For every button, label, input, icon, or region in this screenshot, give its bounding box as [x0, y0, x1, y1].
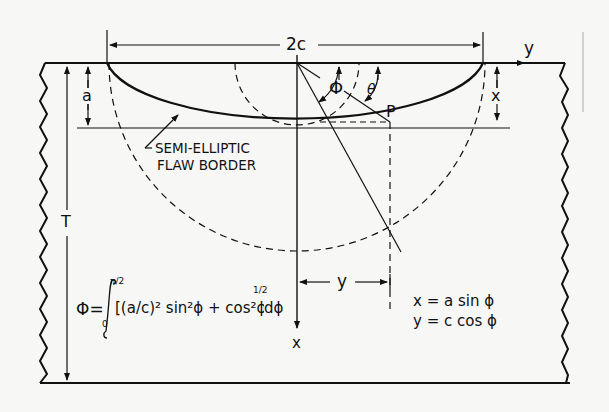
param-y-equation: y = c cos ϕ	[413, 314, 497, 329]
phi-integral-lhs: Φ=	[76, 301, 104, 318]
point-p-label: P	[386, 104, 396, 120]
flaw-geometry-diagram	[0, 0, 609, 412]
phi-angle-label: Φ	[329, 79, 343, 97]
y-offset-label: y	[335, 273, 349, 290]
phi-radial-line	[297, 63, 401, 252]
flaw-border-label-1: SEMI-ELLIPTIC	[155, 142, 250, 156]
phi-integral-lower-limit: 0	[102, 320, 108, 329]
x-axis-label: x	[292, 336, 301, 351]
integral-sign	[104, 280, 116, 338]
param-x-equation: x = a sin ϕ	[413, 294, 494, 309]
x-depth-label: x	[491, 88, 500, 104]
right-break-line	[560, 63, 568, 383]
phi-integral-upper-limit: π/2	[110, 277, 124, 286]
flaw-border-label-2: FLAW BORDER	[157, 159, 256, 173]
left-break-line	[40, 63, 47, 383]
theta-angle-label: θ	[367, 82, 376, 96]
phi-integral-body: [(a/c)² sin²ϕ + cos²ϕ]	[115, 301, 272, 316]
y-axis-label: y	[524, 40, 534, 57]
depth-label: a	[82, 88, 92, 104]
semi-elliptic-flaw-border	[107, 63, 483, 119]
width-label: 2c	[283, 36, 309, 53]
plate-outline	[40, 63, 570, 383]
phi-integral-tail: dϕ	[264, 301, 283, 316]
thickness-label: T	[61, 214, 71, 230]
phi-integral-power: 1/2	[253, 286, 267, 295]
